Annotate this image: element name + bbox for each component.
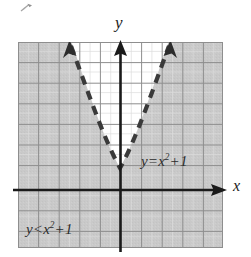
textbook-figure: y x: [0, 0, 251, 257]
curve-eq-lhs: y: [141, 153, 148, 169]
region-inequality-label: y<x2+1: [26, 220, 72, 238]
curve-eq-plus: +: [169, 153, 179, 169]
curve-eq-relation: =: [148, 153, 158, 169]
curve-eq-constant: 1: [180, 153, 188, 169]
curve-equation-label: y=x2+1: [141, 152, 187, 170]
axes-layer: [0, 0, 251, 257]
region-eq-constant: 1: [65, 221, 73, 237]
curve-eq-base: x: [158, 153, 165, 169]
region-eq-base: x: [43, 221, 50, 237]
region-eq-lhs: y: [26, 221, 33, 237]
region-eq-relation: <: [33, 221, 43, 237]
region-eq-plus: +: [54, 221, 64, 237]
